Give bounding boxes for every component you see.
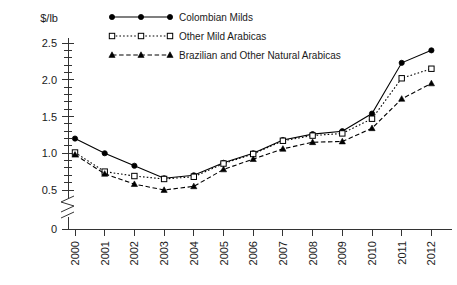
data-point-marker xyxy=(161,176,166,181)
legend: Colombian MildsOther Mild ArabicasBrazil… xyxy=(109,12,341,61)
series-line xyxy=(75,69,431,179)
data-point-marker xyxy=(369,116,374,121)
data-point-marker xyxy=(429,66,434,71)
data-point-marker xyxy=(428,80,434,86)
data-point-marker xyxy=(109,33,114,38)
series-2 xyxy=(72,66,434,182)
y-tick-label: 2.0 xyxy=(42,74,57,86)
x-tick-label: 2000 xyxy=(69,241,81,265)
x-tick-label: 2010 xyxy=(366,241,378,265)
data-point-marker xyxy=(221,161,226,166)
x-tick-label: 2001 xyxy=(99,241,111,265)
data-point-marker xyxy=(138,33,143,38)
legend-label: Colombian Milds xyxy=(179,12,253,23)
coffee-price-line-chart: 00.51.01.52.02.5200020012002200320042005… xyxy=(0,0,457,285)
x-tick-label: 2008 xyxy=(307,241,319,265)
data-point-marker xyxy=(369,111,374,116)
data-point-marker xyxy=(399,60,404,65)
legend-item-1[interactable]: Colombian Milds xyxy=(109,12,253,23)
data-point-marker xyxy=(109,14,114,19)
x-tick-label: 2006 xyxy=(247,241,259,265)
x-tick-label: 2002 xyxy=(128,241,140,265)
data-point-marker xyxy=(191,183,197,189)
data-point-marker xyxy=(72,136,77,141)
data-point-marker xyxy=(340,131,345,136)
data-point-marker xyxy=(399,76,404,81)
y-tick-label: 1.0 xyxy=(42,147,57,159)
data-point-marker xyxy=(310,133,315,138)
data-point-marker xyxy=(167,52,173,58)
data-point-marker xyxy=(132,173,137,178)
y-tick-label: 2.5 xyxy=(42,37,57,49)
x-tick-label: 2012 xyxy=(425,241,437,265)
legend-label: Other Mild Arabicas xyxy=(179,31,266,42)
x-tick-label: 2007 xyxy=(277,241,289,265)
data-point-marker xyxy=(132,163,137,168)
legend-label: Brazilian and Other Natural Arabicas xyxy=(179,50,341,61)
x-tick-label: 2003 xyxy=(158,241,170,265)
y-tick-label: 0.5 xyxy=(42,184,57,196)
x-tick-label: 2004 xyxy=(188,241,200,265)
data-point-marker xyxy=(280,146,286,152)
legend-item-3[interactable]: Brazilian and Other Natural Arabicas xyxy=(109,50,341,61)
data-point-marker xyxy=(399,96,405,102)
series-3 xyxy=(72,80,435,192)
legend-item-2[interactable]: Other Mild Arabicas xyxy=(109,31,266,42)
x-tick-label: 2005 xyxy=(218,241,230,265)
data-point-marker xyxy=(429,48,434,53)
y-tick-label: 1.5 xyxy=(42,111,57,123)
data-point-marker xyxy=(191,174,196,179)
x-tick-label: 2011 xyxy=(396,241,408,265)
data-point-marker xyxy=(138,14,143,19)
y-tick-label: 0 xyxy=(51,223,57,235)
data-point-marker xyxy=(167,14,172,19)
series-line xyxy=(75,83,431,190)
data-point-marker xyxy=(280,138,285,143)
x-tick-label: 2009 xyxy=(336,241,348,265)
data-point-marker xyxy=(167,33,172,38)
data-point-marker xyxy=(102,151,107,156)
chart-canvas: 00.51.01.52.02.5200020012002200320042005… xyxy=(0,0,457,285)
y-axis-break-icon xyxy=(61,196,74,218)
y-axis-title: $/lb xyxy=(40,12,58,24)
